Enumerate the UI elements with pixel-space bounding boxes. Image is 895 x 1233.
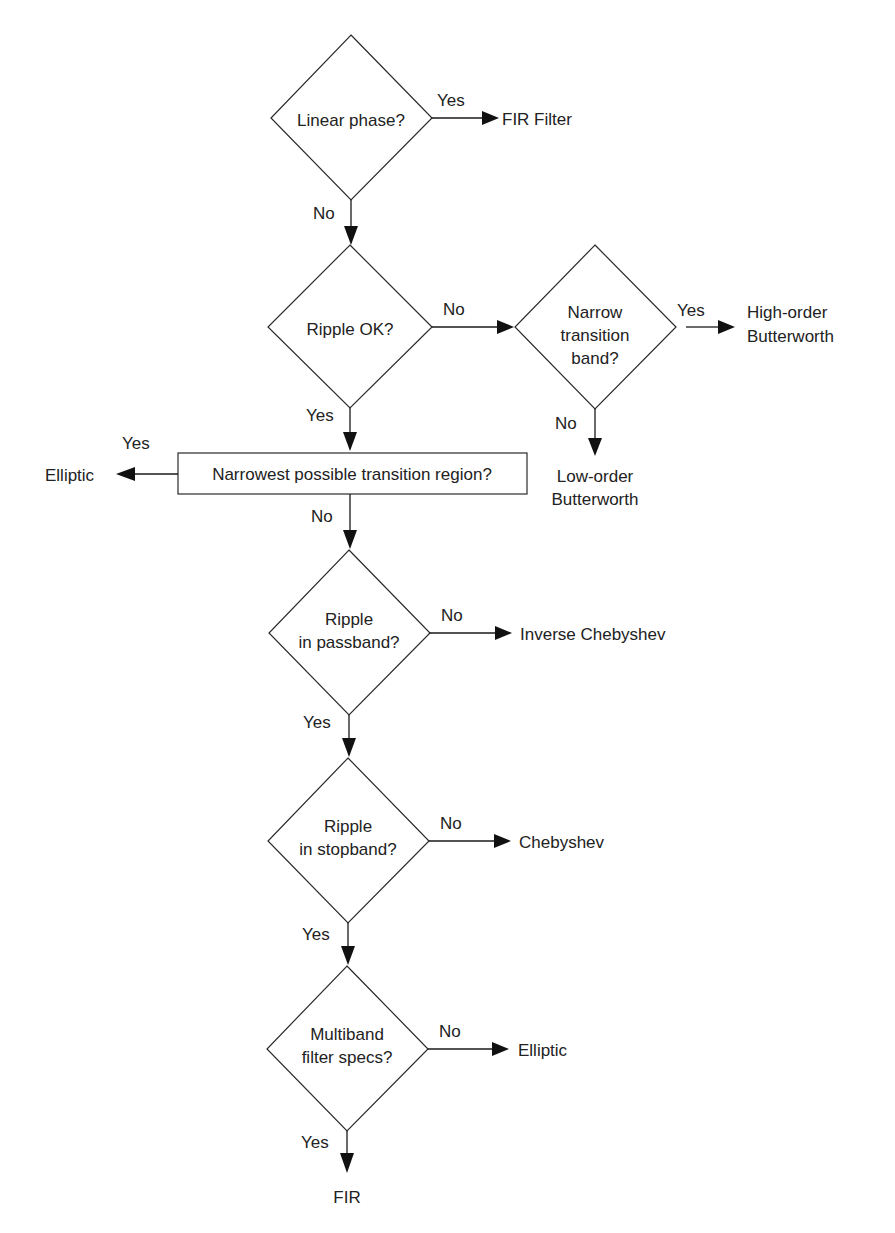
decision-linear-phase: Linear phase? (271, 35, 432, 200)
decision-label: in passband? (298, 633, 399, 652)
edge-passband-yes: Yes (303, 713, 356, 757)
edge-label: Yes (122, 434, 150, 453)
svg-text:Low-order: Low-order (557, 467, 634, 486)
edge-label: Yes (306, 406, 334, 425)
decision-ripple-in-passband: Ripple in passband? (269, 550, 430, 715)
outcome-chebyshev: Chebyshev (519, 833, 605, 852)
decision-narrowest-transition-region: Narrowest possible transition region? (178, 453, 527, 494)
outcome-fir-filter: FIR Filter (502, 110, 572, 129)
edge-narrowest-region-no: No (311, 494, 357, 549)
edge-label: Yes (303, 713, 331, 732)
arrowhead-icon (343, 530, 357, 549)
decision-ripple-in-stopband: Ripple in stopband? (268, 758, 429, 923)
arrowhead-icon (492, 1042, 509, 1056)
decision-label: Linear phase? (297, 111, 405, 130)
decision-narrow-transition-band: Narrow transition band? (515, 245, 676, 409)
decision-label: Ripple OK? (307, 320, 394, 339)
arrowhead-icon (342, 738, 356, 757)
svg-text:Butterworth: Butterworth (747, 327, 834, 346)
edge-linear-phase-no: No (313, 200, 358, 245)
edge-label: Yes (437, 91, 465, 110)
decision-label: Ripple (325, 610, 373, 629)
edge-multiband-no: No (428, 1022, 509, 1056)
edge-label: Yes (301, 1133, 329, 1152)
outcome-elliptic-1: Elliptic (45, 466, 95, 485)
arrowhead-icon (482, 111, 499, 125)
edge-stopband-yes: Yes (302, 923, 355, 965)
outcome-elliptic-2: Elliptic (518, 1041, 568, 1060)
decision-label: transition (561, 326, 630, 345)
svg-text:Butterworth: Butterworth (552, 490, 639, 509)
edge-stopband-no: No (429, 814, 511, 848)
edge-narrow-band-yes: Yes (677, 301, 735, 334)
edge-label: No (555, 414, 577, 433)
arrowhead-icon (495, 626, 512, 640)
arrowhead-icon (116, 467, 135, 481)
svg-text:High-order: High-order (747, 303, 828, 322)
decision-multiband-filter-specs: Multiband filter specs? (267, 966, 428, 1131)
edge-ripple-ok-no: No (432, 300, 514, 334)
arrowhead-icon (588, 438, 602, 456)
edge-label: No (313, 204, 335, 223)
outcome-inverse-chebyshev: Inverse Chebyshev (520, 625, 666, 644)
edge-linear-phase-yes: Yes (432, 91, 499, 125)
arrowhead-icon (343, 432, 357, 451)
edge-label: No (439, 1022, 461, 1041)
outcome-low-order-butterworth: Low-order Butterworth (552, 467, 639, 509)
edge-label: No (441, 606, 463, 625)
decision-label: in stopband? (299, 840, 396, 859)
arrowhead-icon (718, 320, 735, 334)
outcome-fir: FIR (333, 1188, 360, 1207)
edge-ripple-ok-yes: Yes (306, 406, 357, 451)
decision-label: Narrowest possible transition region? (212, 465, 492, 484)
decision-label: Ripple (324, 817, 372, 836)
decision-label: Narrow (568, 303, 624, 322)
edge-label: Yes (302, 925, 330, 944)
arrowhead-icon (344, 226, 358, 245)
outcome-high-order-butterworth: High-order Butterworth (747, 303, 834, 346)
decision-label: band? (571, 349, 618, 368)
edge-label: Yes (677, 301, 705, 320)
edge-label: No (311, 507, 333, 526)
flowchart-canvas: Linear phase? Yes FIR Filter No Ripple O… (0, 0, 895, 1233)
arrowhead-icon (494, 834, 511, 848)
edge-label: No (440, 814, 462, 833)
edge-narrowest-region-yes: Yes (116, 434, 178, 481)
arrowhead-icon (340, 1153, 354, 1173)
edge-multiband-yes: Yes (301, 1131, 354, 1173)
decision-label: Multiband (310, 1025, 384, 1044)
edge-narrow-band-no: No (555, 409, 602, 456)
decision-ripple-ok: Ripple OK? (268, 245, 432, 408)
arrowhead-icon (341, 946, 355, 965)
edge-passband-no: No (430, 606, 512, 640)
arrowhead-icon (497, 320, 514, 334)
edge-label: No (443, 300, 465, 319)
decision-label: filter specs? (302, 1048, 393, 1067)
